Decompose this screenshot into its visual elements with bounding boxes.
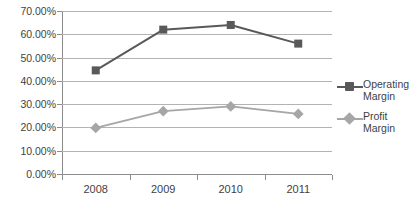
y-axis-labels: 70.00%60.00%50.00%40.00%30.00%20.00%10.0… (0, 0, 56, 222)
series-layer (62, 11, 332, 174)
legend-diamond-icon (343, 112, 356, 125)
x-axis-tick (130, 175, 131, 180)
y-axis-tick (57, 104, 62, 105)
legend-entry-operating-margin[interactable]: OperatingMargin (337, 79, 419, 102)
x-axis-tick-label: 2011 (268, 183, 328, 196)
x-axis-tick-label: 2009 (133, 183, 193, 196)
data-point-marker-square (92, 66, 100, 74)
y-axis-tick-label: 30.00% (2, 99, 56, 110)
data-point-marker-square (227, 21, 235, 29)
x-axis-labels: 2008200920102011 (62, 183, 332, 199)
legend-square-icon (345, 82, 354, 91)
series-line (96, 25, 299, 70)
legend-key-icon (337, 80, 363, 93)
data-point-marker-square (294, 40, 302, 48)
legend-label-line-2: Margin (363, 123, 395, 135)
legend-entry-profit-margin[interactable]: ProfitMargin (337, 111, 419, 134)
plot-area (62, 11, 332, 174)
y-axis-tick-label: 0.00% (2, 169, 56, 180)
series-line (96, 106, 299, 127)
x-axis-tick (62, 175, 63, 180)
y-axis-tick (57, 151, 62, 152)
legend-label: OperatingMargin (363, 79, 409, 102)
y-axis-tick-label: 20.00% (2, 122, 56, 133)
y-axis-tick (57, 174, 62, 175)
y-axis-tick (57, 58, 62, 59)
y-axis-tick (57, 34, 62, 35)
y-axis-tick (57, 127, 62, 128)
legend-label: ProfitMargin (363, 111, 395, 134)
y-axis-tick-label: 70.00% (2, 6, 56, 17)
data-point-marker-diamond (158, 106, 169, 117)
figure-caption (6, 211, 416, 222)
margins-line-chart: 70.00%60.00%50.00%40.00%30.00%20.00%10.0… (0, 0, 419, 222)
y-axis-tick (57, 11, 62, 12)
legend-label-line-1: Profit (363, 111, 395, 123)
y-axis-tick (57, 81, 62, 82)
chart-legend: OperatingMarginProfitMargin (337, 79, 419, 143)
x-axis-tick (265, 175, 266, 180)
y-axis-tick-label: 50.00% (2, 53, 56, 64)
y-axis-tick-label: 10.00% (2, 146, 56, 157)
x-axis-tick-label: 2010 (201, 183, 261, 196)
x-axis-tick (332, 175, 333, 180)
legend-key-icon (337, 112, 363, 125)
legend-label-line-1: Operating (363, 79, 409, 91)
data-point-marker-diamond (90, 122, 101, 133)
data-point-marker-diamond (225, 101, 236, 112)
x-axis-tick (197, 175, 198, 180)
x-axis-tick-label: 2008 (66, 183, 126, 196)
data-point-marker-diamond (293, 109, 304, 120)
data-point-marker-square (159, 26, 167, 34)
y-axis-tick-label: 60.00% (2, 29, 56, 40)
y-axis-tick-label: 40.00% (2, 76, 56, 87)
legend-label-line-2: Margin (363, 91, 409, 103)
